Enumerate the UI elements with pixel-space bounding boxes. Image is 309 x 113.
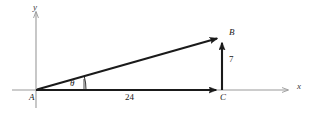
vertex-label-a: A xyxy=(29,93,35,102)
side-length-label-ac: 24 xyxy=(125,93,134,102)
x-axis-label: x xyxy=(297,82,301,91)
vertex-label-b: B xyxy=(229,28,235,37)
figure-canvas xyxy=(0,0,309,113)
side-length-label-cb: 7 xyxy=(229,55,234,64)
vector-ab xyxy=(37,39,217,90)
angle-arc-theta xyxy=(84,76,86,90)
y-axis-label: y xyxy=(33,3,37,12)
vector-triangle-figure: y x A B C 24 7 θ xyxy=(0,0,309,113)
vertex-label-c: C xyxy=(220,93,226,102)
angle-label-theta: θ xyxy=(70,79,74,88)
